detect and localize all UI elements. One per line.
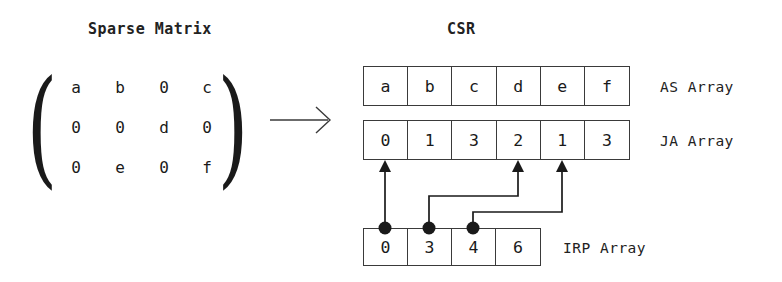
sparse-matrix-title: Sparse Matrix [88, 20, 212, 38]
matrix-cell-r0c2: 0 [159, 78, 169, 97]
as-array-label: AS Array [660, 79, 734, 95]
irp-array: 0346 [363, 228, 541, 266]
connector-arrowhead-0 [379, 160, 391, 172]
irp-cell-2: 4 [452, 229, 496, 265]
matrix-cell-r1c0: 0 [71, 118, 81, 137]
right-arrow-icon [268, 104, 338, 136]
matrix-close-paren: ) [218, 63, 249, 191]
csr-diagram: Sparse Matrix ( ) a b 0 c 0 0 d 0 0 e 0 … [0, 0, 782, 282]
as-cell-4: e [541, 67, 585, 105]
ja-cell-4: 1 [541, 121, 585, 159]
as-cell-5: f [585, 67, 629, 105]
connector-arrowhead-1 [512, 160, 524, 172]
ja-array: 013213 [363, 120, 630, 160]
connector-line-2 [473, 168, 562, 228]
ja-cell-3: 2 [497, 121, 541, 159]
matrix-cell-r1c2: d [159, 118, 169, 137]
as-cell-0: a [364, 67, 408, 105]
matrix-cell-r0c3: c [202, 78, 212, 97]
matrix-cell-r1c1: 0 [115, 118, 125, 137]
as-cell-2: c [452, 67, 496, 105]
connector-arrowhead-2 [556, 160, 568, 172]
ja-cell-5: 3 [585, 121, 629, 159]
as-cell-3: d [497, 67, 541, 105]
csr-title: CSR [447, 20, 476, 38]
matrix-cell-r2c0: 0 [71, 158, 81, 177]
as-cell-1: b [408, 67, 452, 105]
ja-cell-2: 3 [452, 121, 496, 159]
matrix-open-paren: ( [27, 63, 58, 191]
ja-array-label: JA Array [660, 133, 734, 149]
as-array: abcdef [363, 66, 630, 106]
irp-array-label: IRP Array [563, 240, 646, 256]
irp-cell-3: 6 [496, 229, 540, 265]
matrix-cell-r0c1: b [115, 78, 125, 97]
matrix-cell-r0c0: a [71, 78, 81, 97]
matrix-cell-r2c2: 0 [159, 158, 169, 177]
irp-cell-1: 3 [408, 229, 452, 265]
irp-cell-0: 0 [364, 229, 408, 265]
ja-cell-1: 1 [408, 121, 452, 159]
matrix-cell-r2c1: e [115, 158, 125, 177]
ja-cell-0: 0 [364, 121, 408, 159]
matrix-cell-r2c3: f [202, 158, 212, 177]
connector-line-1 [429, 168, 518, 228]
matrix-cell-r1c3: 0 [202, 118, 212, 137]
